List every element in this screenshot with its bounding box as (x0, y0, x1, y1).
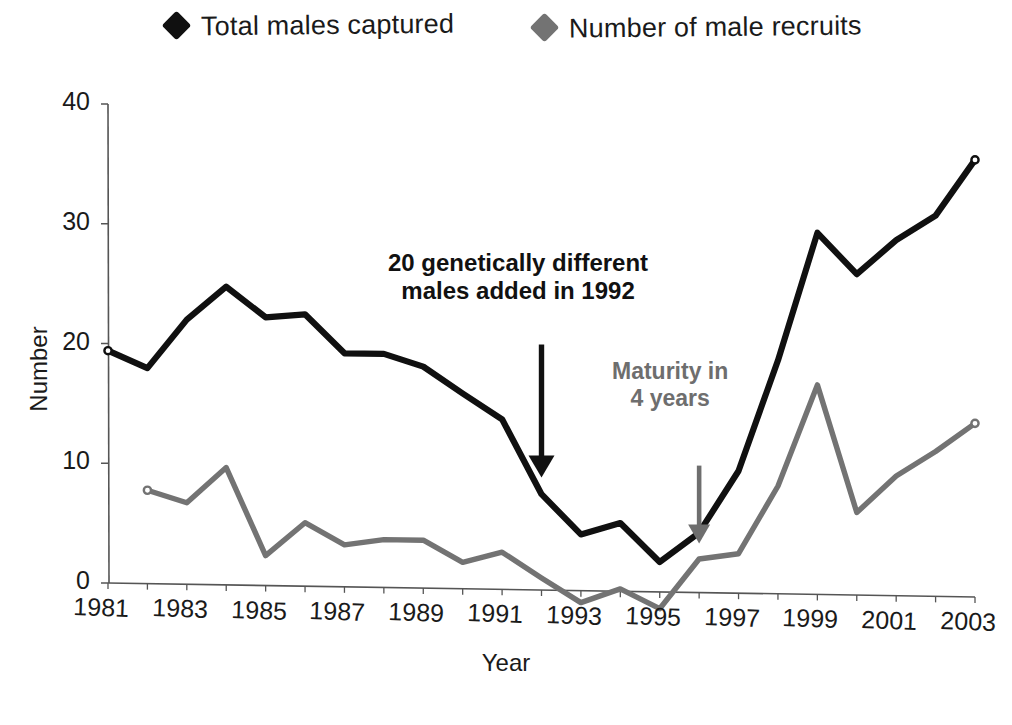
x-tick-label-1987: 1987 (309, 596, 366, 627)
x-tick-label-1993: 1993 (546, 600, 603, 631)
x-tick-label-1985: 1985 (231, 595, 288, 626)
x-tick-label-1981: 1981 (73, 592, 130, 623)
x-tick-label-2001: 2001 (861, 605, 918, 636)
y-tick-label-40: 40 (24, 87, 90, 116)
chart-figure: Total males captured Number of male recr… (0, 0, 1012, 725)
series-endpoint-marker (144, 487, 151, 494)
series-endpoint-marker (971, 420, 978, 427)
series-endpoint-marker (104, 347, 111, 354)
series-endpoint-marker (971, 156, 978, 163)
annotation-maturity: Maturity in 4 years (612, 358, 728, 412)
y-tick-label-10: 10 (24, 446, 90, 475)
x-tick-label-1997: 1997 (703, 602, 760, 633)
y-axis-line (108, 104, 109, 583)
x-tick-label-1991: 1991 (467, 598, 524, 629)
x-tick-label-1989: 1989 (388, 597, 445, 628)
x-tick-label-2003: 2003 (940, 606, 997, 637)
y-tick-label-20: 20 (24, 327, 90, 356)
y-tick-label-0: 0 (24, 566, 90, 595)
x-tick-label-1983: 1983 (152, 593, 209, 624)
y-tick-label-30: 30 (24, 207, 90, 236)
series-line-male-recruits (147, 385, 975, 609)
x-tick-label-1995: 1995 (625, 601, 682, 632)
x-tick-label-1999: 1999 (782, 603, 839, 634)
annotation-added-males: 20 genetically different males added in … (388, 249, 648, 306)
